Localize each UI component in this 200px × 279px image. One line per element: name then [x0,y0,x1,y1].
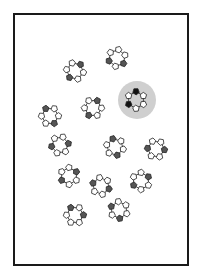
diagram-canvas [0,0,200,279]
dark-pentagon [73,169,79,175]
white-pentagon [115,199,121,205]
white-pentagon [75,76,81,82]
white-pentagon [123,202,129,208]
white-pentagon [158,139,164,145]
dark-pentagon [131,182,137,188]
white-pentagon [107,49,113,55]
dark-pentagon [108,203,114,209]
white-pentagon [138,169,144,175]
dark-pentagon [43,105,49,111]
white-pentagon [81,105,87,111]
white-pentagon [62,148,68,154]
dark-pentagon [116,215,122,221]
dark-pentagon [80,212,86,218]
white-pentagon [80,69,86,75]
pentagon-cluster [108,199,130,222]
white-pentagon [138,187,144,193]
pentagon-cluster [130,169,151,193]
pentagon-cluster [63,204,87,226]
white-pentagon [66,164,72,170]
dark-pentagon [161,146,167,152]
dark-pentagon [144,145,150,151]
white-pentagon [59,169,65,175]
dark-pentagon [110,136,116,142]
pentagon-cluster [81,97,105,118]
white-pentagon [124,211,130,217]
white-pentagon [98,105,104,111]
dark-pentagon [58,177,64,183]
white-pentagon [69,60,75,66]
white-pentagon [149,138,155,144]
white-pentagon [94,112,100,118]
white-pentagon [86,98,92,104]
white-pentagon [43,120,49,126]
dark-pentagon [68,204,74,210]
white-pentagon [55,113,61,119]
dark-pentagon [67,74,73,80]
white-pentagon [97,175,103,181]
white-pentagon [51,106,57,112]
dark-pentagon [77,61,83,67]
white-pentagon [104,177,110,183]
dark-pentagon [106,186,112,192]
white-pentagon [106,150,112,156]
pentagon-cluster [63,60,86,83]
dark-pentagon [145,174,151,180]
white-pentagon [76,220,82,226]
cluster-layer [38,46,168,225]
white-pentagon [118,138,124,144]
white-pentagon [68,219,74,225]
dark-pentagon [94,97,100,103]
pentagon-cluster [38,105,62,127]
dark-pentagon [121,60,127,66]
pentagon-cluster [90,175,113,198]
highlighted-cluster-circle [118,81,156,119]
white-pentagon [51,135,57,141]
pentagon-cluster [103,136,126,159]
white-pentagon [92,188,98,194]
white-pentagon [156,154,162,160]
white-pentagon [76,205,82,211]
white-pentagon [109,212,115,218]
white-pentagon [103,142,109,148]
white-pentagon [148,153,154,159]
pentagon-cluster [49,134,72,156]
pentagon-cluster [58,164,80,188]
dark-pentagon [90,180,96,186]
pentagon-cluster [144,138,168,160]
white-pentagon [130,174,136,180]
dark-pentagon [86,112,92,118]
white-pentagon [120,146,126,152]
white-pentagon [63,66,69,72]
white-pentagon [99,191,105,197]
white-pentagon [73,177,79,183]
pentagon-cluster [106,46,128,69]
white-pentagon [63,212,69,218]
dark-pentagon [51,121,57,127]
white-pentagon [66,181,72,187]
dark-pentagon [114,152,120,158]
white-pentagon [38,113,44,119]
white-pentagon [145,182,151,188]
